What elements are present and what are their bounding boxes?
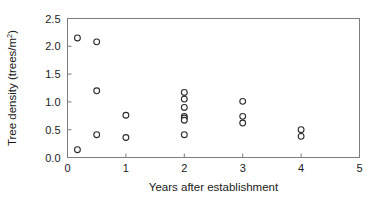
data-point-marker: [94, 39, 100, 45]
chart-canvas: 0.00.51.01.52.02.5012345Years after esta…: [0, 0, 389, 199]
data-point-marker: [240, 120, 246, 126]
data-point-marker: [75, 35, 81, 41]
y-axis-title: Tree density (trees/m2): [5, 30, 18, 146]
y-tick-label: 1.0: [45, 96, 60, 108]
scatter-plot-figure: 0.00.51.01.52.02.5012345Years after esta…: [0, 0, 389, 199]
data-point-marker: [181, 105, 187, 111]
plot-frame: [68, 19, 360, 158]
data-points: [75, 35, 304, 153]
data-point-marker: [240, 113, 246, 119]
x-axis: 012345: [64, 154, 362, 174]
x-axis-title: Years after establishment: [149, 181, 279, 193]
data-point-marker: [298, 133, 304, 139]
x-tick-label: 1: [123, 162, 129, 174]
y-axis-title-base: Tree density (trees/m: [6, 38, 18, 146]
x-tick-label: 5: [356, 162, 362, 174]
x-tick-label: 4: [298, 162, 304, 174]
y-axis-title-close: ): [6, 30, 18, 34]
data-point-marker: [123, 112, 129, 118]
y-tick-label: 0.0: [45, 152, 60, 164]
data-point-marker: [181, 132, 187, 138]
data-point-marker: [75, 147, 81, 153]
data-point-marker: [181, 117, 187, 123]
data-point-marker: [240, 98, 246, 104]
data-point-marker: [181, 90, 187, 96]
y-tick-label: 2.0: [45, 40, 60, 52]
y-tick-label: 0.5: [45, 124, 60, 136]
y-tick-label: 2.5: [45, 13, 60, 25]
data-point-marker: [94, 88, 100, 94]
x-tick-label: 0: [64, 162, 70, 174]
data-point-marker: [298, 127, 304, 133]
y-tick-label: 1.5: [45, 68, 60, 80]
data-point-marker: [94, 132, 100, 138]
data-point-marker: [123, 135, 129, 141]
x-tick-label: 3: [240, 162, 246, 174]
x-tick-label: 2: [181, 162, 187, 174]
data-point-marker: [181, 96, 187, 102]
